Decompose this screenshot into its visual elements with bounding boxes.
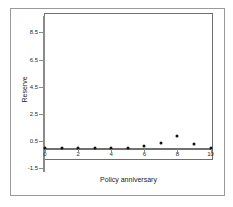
y-tick-mark (39, 87, 44, 88)
data-point (143, 145, 146, 148)
y-tick-mark (39, 60, 44, 61)
x-tick-mark (177, 149, 178, 153)
y-tick-label: 2.5 (30, 111, 38, 117)
x-axis-tick-labels: 0246810 (44, 151, 213, 163)
x-tick-mark (45, 149, 46, 153)
y-axis-title: Reserve (21, 60, 28, 120)
y-tick-label: 0.5 (30, 138, 38, 144)
x-tick-mark (144, 149, 145, 153)
data-point (126, 147, 129, 150)
data-point (93, 147, 96, 150)
y-tick-label: 8.5 (30, 29, 38, 35)
x-tick-mark (78, 149, 79, 153)
x-tick-mark (211, 149, 212, 153)
data-point (192, 142, 195, 145)
chart-figure: 8.56.54.52.50.5-1.5 0246810 Policy anniv… (0, 0, 233, 207)
y-tick-mark (39, 32, 44, 33)
y-tick-label: 6.5 (30, 57, 38, 63)
plot-area (44, 13, 213, 160)
y-tick-label: -1.5 (28, 165, 38, 171)
y-tick-label: 4.5 (30, 84, 38, 90)
x-axis-title: Policy anniversary (44, 176, 213, 183)
data-point (159, 142, 162, 145)
y-tick-mark (39, 114, 44, 115)
y-tick-mark (39, 168, 44, 169)
data-point (176, 135, 179, 138)
y-axis-tick-labels: 8.56.54.52.50.5-1.5 (0, 0, 38, 207)
data-point (60, 147, 63, 150)
x-tick-mark (111, 149, 112, 153)
y-tick-mark (39, 141, 44, 142)
